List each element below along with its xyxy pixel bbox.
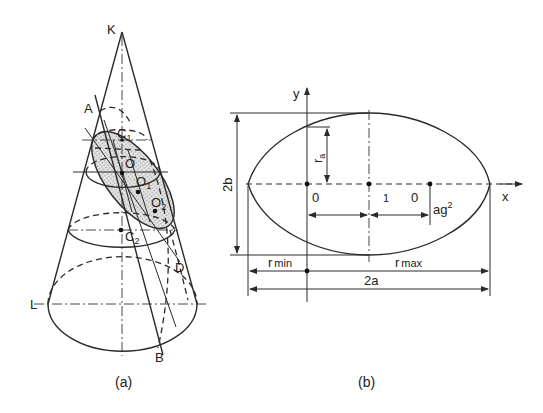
label-center-1: 1 — [383, 192, 389, 204]
panel-b-curve: 2b ra 0 1 0 ag2 rmin rmax 2a y x (b) — [220, 86, 522, 390]
label-ra: ra — [310, 154, 327, 163]
panel-a-cone: K A C1 O O1 O2 C2 D L B (a) — [30, 22, 206, 390]
base-ellipse-front — [48, 304, 197, 351]
label-K: K — [107, 22, 116, 37]
figure-canvas: K A C1 O O1 O2 C2 D L B (a) 2b ra — [0, 0, 543, 413]
arc-A — [100, 107, 130, 122]
label-rmin: rmin — [268, 255, 292, 270]
label-origin-0: 0 — [312, 190, 319, 205]
label-2a: 2a — [364, 273, 379, 288]
label-A: A — [84, 101, 93, 116]
label-ag2: ag2 — [433, 200, 452, 217]
point-center — [367, 182, 372, 187]
label-C2: C2 — [125, 229, 139, 246]
point-focus — [428, 182, 433, 187]
label-x-axis: x — [502, 189, 509, 204]
point-O1 — [136, 190, 141, 195]
label-focus-0: 0 — [411, 190, 418, 205]
label-2b: 2b — [220, 178, 235, 192]
point-origin — [305, 182, 310, 187]
label-y-axis: y — [293, 86, 300, 101]
caption-b: (b) — [358, 374, 375, 390]
point-rmin-origin — [305, 269, 310, 274]
point-O — [120, 171, 125, 176]
label-C1: C1 — [117, 126, 131, 143]
label-O: O — [125, 156, 135, 171]
point-C2 — [119, 228, 124, 233]
label-rmax: rmax — [395, 255, 423, 270]
label-B: B — [155, 350, 164, 365]
label-D: D — [175, 260, 184, 275]
caption-a: (a) — [115, 374, 132, 390]
label-L: L — [30, 297, 37, 312]
